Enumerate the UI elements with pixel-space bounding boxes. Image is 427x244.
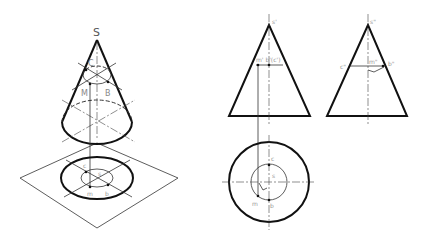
label-c-ground: c bbox=[83, 162, 86, 169]
point-b-ground bbox=[107, 184, 110, 187]
point-M-upper bbox=[89, 83, 92, 86]
cone-left-generator bbox=[62, 40, 97, 122]
section-axis-2 bbox=[72, 63, 116, 90]
side-triangle bbox=[327, 25, 407, 116]
point-m-prime bbox=[257, 64, 260, 67]
label-m-dprime: m" bbox=[369, 58, 378, 65]
ground-plane bbox=[20, 143, 178, 228]
label-m-top: m bbox=[252, 200, 258, 207]
ground-axis-1 bbox=[66, 160, 132, 197]
label-B-upper: B bbox=[105, 89, 111, 98]
label-b-top: b bbox=[270, 202, 274, 209]
section-axis-1 bbox=[78, 63, 122, 90]
label-S: S bbox=[93, 26, 100, 39]
label-s-prime: s' bbox=[272, 18, 277, 25]
top-view: c s m b bbox=[222, 135, 316, 230]
point-c-ground bbox=[85, 171, 88, 174]
label-c-top: c bbox=[271, 155, 274, 162]
label-b-dprime: b" bbox=[388, 60, 395, 67]
side-leader bbox=[368, 67, 384, 72]
front-view: s' m' b'(c') bbox=[229, 14, 310, 196]
point-C-upper bbox=[85, 69, 88, 72]
label-s-dprime: s" bbox=[370, 18, 376, 25]
front-triangle bbox=[229, 25, 310, 116]
label-s-top: s bbox=[272, 172, 275, 179]
point-m-ground bbox=[89, 186, 92, 189]
isometric-view: S C M B c s m b bbox=[20, 26, 178, 228]
label-front-section: m' b'(c') bbox=[256, 56, 281, 63]
cone-projection-drawing: S C M B c s m b s' m' b'(c') s" c" m" b" bbox=[0, 0, 427, 244]
label-b-ground: b bbox=[105, 190, 109, 197]
cone-right-generator bbox=[97, 40, 132, 122]
label-M-upper: M bbox=[81, 89, 88, 98]
label-c-dprime: c" bbox=[340, 63, 346, 70]
label-m-ground: m bbox=[87, 190, 93, 197]
point-b-prime bbox=[268, 64, 271, 67]
point-c-top bbox=[268, 164, 271, 167]
point-B-upper bbox=[107, 81, 110, 84]
side-view: s" c" m" b" bbox=[327, 14, 407, 124]
point-b-dprime bbox=[382, 65, 385, 68]
label-s-ground: s bbox=[98, 170, 101, 177]
ground-axis-2 bbox=[64, 160, 130, 197]
point-m-top bbox=[257, 195, 260, 198]
label-C-upper: C bbox=[88, 59, 94, 68]
point-b-top bbox=[268, 199, 271, 202]
top-leader bbox=[259, 183, 267, 190]
